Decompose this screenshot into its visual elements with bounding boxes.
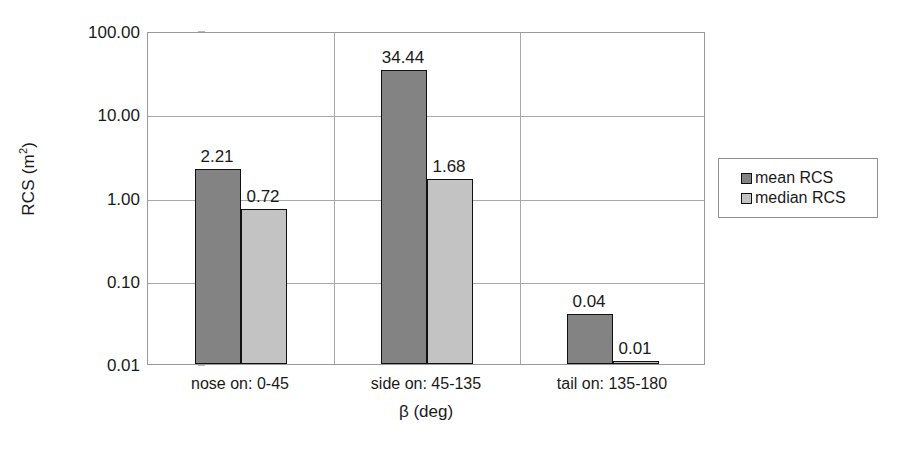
bar[interactable] [241, 209, 287, 364]
y-axis-title-text: RCS (m [19, 154, 38, 216]
x-axis-category-label: side on: 45-135 [371, 376, 481, 392]
legend-item-median-rcs[interactable]: median RCS [719, 188, 877, 208]
y-axis-title: RCS (m2) [17, 99, 39, 259]
chart-legend: mean RCS median RCS [718, 158, 878, 218]
bar-value-label: 1.68 [432, 158, 465, 175]
bar-value-label: 0.72 [246, 188, 279, 205]
y-axis-tick-label: 100.00 [58, 24, 140, 41]
bar[interactable] [381, 70, 427, 364]
legend-swatch-mean-rcs-icon [741, 173, 752, 184]
x-axis-category-label: tail on: 135-180 [557, 376, 667, 392]
bar-value-label: 34.44 [382, 49, 425, 66]
legend-label-median-rcs: median RCS [755, 190, 846, 206]
bar-value-label: 0.04 [572, 293, 605, 310]
bar[interactable] [567, 314, 613, 364]
y-axis-title-exponent: 2 [17, 148, 29, 154]
y-axis-tick-label: 1.00 [58, 190, 140, 207]
gridline-category-separator [334, 33, 335, 364]
plot-area [147, 32, 705, 365]
legend-label-mean-rcs: mean RCS [755, 170, 833, 186]
y-axis-title-paren: ) [19, 142, 38, 148]
bar[interactable] [613, 361, 659, 364]
legend-swatch-median-rcs-icon [741, 193, 752, 204]
y-axis-tick-label: 10.00 [58, 107, 140, 124]
bar-value-label: 2.21 [200, 148, 233, 165]
y-axis-tick-label: 0.10 [58, 273, 140, 290]
legend-item-mean-rcs[interactable]: mean RCS [719, 168, 877, 188]
y-axis-tick-label: 0.01 [58, 357, 140, 374]
y-axis-ticks: 100.0010.001.000.100.01 [58, 32, 140, 365]
bar[interactable] [427, 179, 473, 364]
chart-figure: RCS (m2) 100.0010.001.000.100.01 nose on… [0, 0, 903, 452]
gridline-category-separator [520, 33, 521, 364]
x-axis-title: β (deg) [399, 402, 453, 422]
bar[interactable] [195, 169, 241, 364]
x-axis-category-label: nose on: 0-45 [191, 376, 289, 392]
bar-value-label: 0.01 [618, 340, 651, 357]
